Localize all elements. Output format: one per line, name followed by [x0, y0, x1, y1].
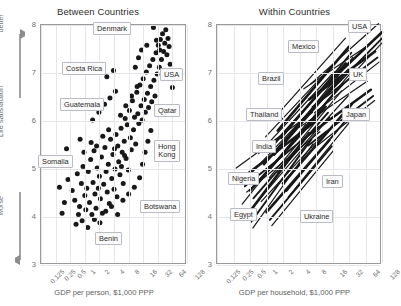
scatter-point [93, 206, 98, 211]
scatter-point [89, 140, 94, 145]
country-callout-denmark: Denmark [93, 22, 131, 35]
gridline-vertical [217, 25, 218, 263]
scatter-point [159, 57, 164, 62]
gridline-horizontal [217, 265, 380, 266]
scatter-point [145, 139, 150, 144]
x-tick-label: 0.25 [240, 268, 254, 282]
x-tick-label: 1 [271, 268, 279, 276]
scatter-point [150, 57, 155, 62]
scatter-point [72, 198, 77, 203]
gridline-vertical [187, 25, 188, 263]
scatter-point [107, 95, 112, 100]
y-tick-label: 7 [24, 68, 36, 77]
scatter-point [133, 142, 138, 147]
x-tick-label: 16 [148, 268, 158, 278]
scatter-point [104, 74, 109, 79]
scatter-point [120, 198, 125, 203]
scatter-point [144, 43, 149, 48]
gridline-horizontal [41, 217, 185, 218]
x-tick-label: 0.5 [256, 268, 267, 279]
scatter-point [123, 103, 128, 108]
scatter-point [118, 113, 123, 118]
y-tick-label: 4 [24, 212, 36, 221]
scatter-point [74, 222, 79, 227]
gridline-vertical [349, 25, 350, 263]
x-axis-caption-within: GDP per household, $1,000 PPP [196, 288, 393, 297]
gridline-vertical [333, 25, 334, 263]
gridline-vertical [382, 25, 383, 263]
scatter-point [163, 27, 168, 32]
scatter-point [148, 84, 153, 89]
panel-title-between: Between Countries [0, 6, 196, 17]
scatter-point [165, 36, 170, 41]
country-callout-ukraine: Ukraine [300, 210, 333, 223]
scatter-point [151, 78, 156, 83]
country-callout-costa-rica: Costa Rica [62, 62, 106, 75]
gridline-vertical [99, 25, 100, 263]
scatter-point [152, 94, 157, 99]
country-callout-guatemala: Guatemala [60, 98, 104, 111]
scatter-point [62, 200, 67, 205]
scatter-point [147, 63, 152, 68]
country-callout-uk: UK [349, 68, 367, 81]
y-tick-label: 5 [24, 164, 36, 173]
x-tick-label: 8 [133, 268, 141, 276]
y-tick-label: 6 [200, 116, 212, 125]
gridline-vertical [70, 25, 71, 263]
country-callout-mexico: Mexico [288, 40, 319, 53]
scatter-point [122, 139, 127, 144]
country-callout-iran: Iran [322, 175, 343, 188]
x-tick-label: 8 [320, 268, 328, 276]
x-axis-caption-between: GDP per person, $1,000 PPP [14, 288, 194, 297]
country-callout-india: India [252, 140, 276, 153]
scatter-point [78, 137, 83, 142]
scatter-point [57, 185, 62, 190]
y-tick-label: 6 [24, 116, 36, 125]
scatter-point [162, 41, 167, 46]
y-tick-label: 8 [200, 20, 212, 29]
country-callout-hong-kong: Hong Kong [154, 140, 180, 162]
scatter-point [121, 181, 126, 186]
gridline-vertical [316, 25, 317, 263]
x-tick-label: 0.125 [225, 268, 242, 285]
x-tick-label: 32 [163, 268, 173, 278]
scatter-point [136, 55, 141, 60]
x-tick-label: 64 [178, 268, 188, 278]
x-tick-label: 16 [338, 268, 348, 278]
scatter-point [130, 98, 135, 103]
scatter-point [129, 94, 134, 99]
scatter-point [106, 162, 111, 167]
gridline-vertical [56, 25, 57, 263]
panel-title-within: Within Countries [196, 6, 393, 17]
scatter-point [75, 171, 80, 176]
gridline-horizontal [41, 121, 185, 122]
scatter-point [64, 146, 69, 151]
gridline-vertical [143, 25, 144, 263]
x-tick-label: 32 [354, 268, 364, 278]
scatter-point [164, 52, 169, 57]
scatter-point [91, 180, 96, 185]
y-tick-label: 5 [200, 164, 212, 173]
gridline-vertical [366, 25, 367, 263]
scatter-point [79, 181, 84, 186]
x-tick-label: 4 [304, 268, 312, 276]
scatter-point [85, 225, 90, 230]
country-callout-japan: Japan [342, 108, 370, 121]
scatter-point [122, 153, 127, 158]
scatter-point [94, 143, 99, 148]
country-callout-brazil: Brazil [258, 72, 284, 85]
scatter-point [148, 128, 153, 133]
x-tick-label: 1 [89, 268, 97, 276]
gridline-horizontal [217, 169, 380, 170]
country-callout-benin: Benin [95, 232, 122, 245]
gridline-vertical [283, 25, 284, 263]
x-tick-label: 0.5 [76, 268, 87, 279]
scatter-point [92, 148, 97, 153]
scatter-point [135, 111, 140, 116]
scatter-point [60, 211, 65, 216]
scatter-point [167, 44, 172, 49]
panel-within-countries: Within Countries 876543 0.1250.250.51248… [196, 0, 393, 306]
y-tick-label: 4 [200, 212, 212, 221]
scatter-point [88, 157, 93, 162]
